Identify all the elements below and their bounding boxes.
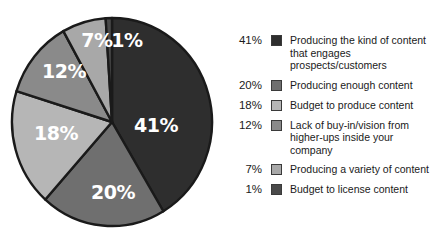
pie-slice-label: 18%: [34, 122, 78, 144]
legend-percentage: 20%: [232, 79, 262, 92]
legend-color-swatch: [271, 100, 282, 111]
legend-label: Producing the kind of content that engag…: [290, 34, 438, 72]
legend-row[interactable]: 41%Producing the kind of content that en…: [232, 34, 438, 72]
pie-chart-figure: 41%20%18%12%7%1% 41%Producing the kind o…: [0, 0, 438, 238]
legend-label: Producing a variety of content: [290, 163, 438, 176]
legend-label: Producing enough content: [290, 79, 438, 92]
legend-percentage: 18%: [232, 99, 262, 112]
legend-percentage: 41%: [232, 34, 262, 47]
legend-row[interactable]: 12%Lack of buy-in/vision from higher-ups…: [232, 119, 438, 157]
legend-row[interactable]: 7%Producing a variety of content: [232, 163, 438, 176]
pie-chart-svg: 41%20%18%12%7%1%: [10, 16, 214, 228]
legend-color-swatch: [271, 35, 282, 46]
legend-color-swatch: [271, 80, 282, 91]
legend-row[interactable]: 1%Budget to license content: [232, 183, 438, 196]
legend-label: Lack of buy-in/vision from higher-ups in…: [290, 119, 438, 157]
pie-slice-label: 20%: [91, 181, 135, 203]
pie-chart: 41%20%18%12%7%1%: [10, 16, 214, 228]
pie-slice-label: 12%: [42, 60, 86, 82]
legend-label: Budget to license content: [290, 183, 438, 196]
pie-slice-label: 41%: [134, 114, 178, 136]
legend-percentage: 7%: [232, 163, 262, 176]
legend-percentage: 1%: [232, 183, 262, 196]
pie-slice-label: 1%: [111, 29, 143, 51]
legend-percentage: 12%: [232, 119, 262, 132]
legend-color-swatch: [271, 184, 282, 195]
legend-row[interactable]: 18%Budget to produce content: [232, 99, 438, 112]
legend-color-swatch: [271, 120, 282, 131]
chart-legend: 41%Producing the kind of content that en…: [232, 34, 438, 203]
legend-row[interactable]: 20%Producing enough content: [232, 79, 438, 92]
pie-slice-label: 7%: [81, 29, 113, 51]
legend-color-swatch: [271, 164, 282, 175]
legend-label: Budget to produce content: [290, 99, 438, 112]
